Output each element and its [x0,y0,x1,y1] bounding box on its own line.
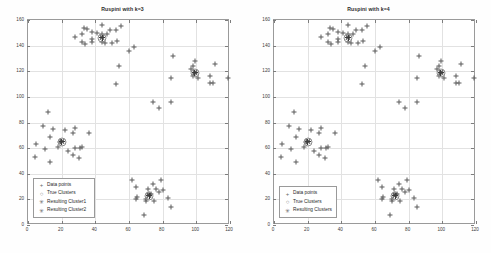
data-point-marker [458,61,463,66]
data-point-marker [211,80,216,85]
axis-tick-x [95,221,96,224]
data-point-marker [157,106,162,111]
axis-tick-x [28,221,29,224]
gridline-horizontal [274,123,474,124]
data-point-marker [47,134,52,139]
data-point-marker [135,194,140,199]
data-point-marker [346,23,351,28]
figure-window: Ruspini with k=3 +Data points○True Clust… [0,0,491,253]
axis-label-y: 140 [6,42,24,47]
axis-tick-y [27,148,30,149]
data-point-marker [79,32,84,37]
plot-legend[interactable]: +Data points○True Clusters✳Resulting Clu… [33,178,95,218]
data-point-marker [319,34,324,39]
data-point-marker [86,130,91,135]
data-point-marker [416,53,421,58]
circle-icon: ○ [36,190,47,198]
data-point-marker [288,147,293,152]
data-point-marker [32,155,37,160]
axis-label-y: 100 [252,93,270,98]
data-point-marker [152,198,157,203]
axis-label-x: 60 [371,227,376,232]
data-point-marker [280,142,285,147]
axis-label-x: 80 [405,227,410,232]
legend-item-3[interactable]: ✳Resulting Cluster2 [36,206,91,215]
axis-tick-x [308,221,309,224]
legend-item-2[interactable]: ✳Resulting Cluster1 [36,198,91,207]
data-point-marker [73,125,78,130]
axis-tick-x-top [230,20,231,23]
data-point-marker [115,38,120,43]
resulting-cluster-marker [438,70,444,76]
data-point-marker [287,124,292,129]
axis-label-y: 40 [252,170,270,175]
data-point-marker [169,100,174,105]
axis-label-x: 20 [58,227,63,232]
plot-axes-k4: +Data points○True Clusters✳Resulting Clu… [273,19,475,224]
data-point-marker [317,130,322,135]
data-point-marker [325,144,330,149]
axis-tick-y-right [471,46,474,47]
gridline-horizontal [274,174,474,175]
gridline-vertical [341,20,342,223]
axis-tick-y-right [225,123,228,124]
data-point-marker [192,59,197,64]
axis-tick-y [273,97,276,98]
data-point-marker [396,100,401,105]
axis-tick-x-top [95,20,96,23]
axis-tick-y-right [225,199,228,200]
axis-label-x: 80 [159,227,164,232]
gridline-horizontal [28,174,228,175]
legend-item-1[interactable]: ○True Clusters [282,198,333,207]
axis-label-x: 40 [338,227,343,232]
data-point-marker [226,75,231,80]
axis-tick-x [230,221,231,224]
axis-tick-x [476,221,477,224]
data-point-marker [165,196,170,201]
axis-tick-y-right [225,20,228,21]
circle-icon: ○ [282,198,293,206]
axis-label-y: 160 [252,17,270,22]
axis-tick-y [27,97,30,98]
axis-tick-y-right [225,148,228,149]
star-icon: ✳ [282,207,293,215]
axis-tick-y [27,123,30,124]
data-point-marker [319,125,324,130]
legend-marker-glyph: ✳ [39,208,44,214]
data-point-marker [132,44,137,49]
gridline-horizontal [274,46,474,47]
data-point-marker [472,75,477,80]
axis-label-x: 120 [225,227,233,232]
axis-tick-y-right [471,123,474,124]
axis-label-x: 60 [125,227,130,232]
resulting-cluster-marker [345,35,351,41]
data-point-marker [381,194,386,199]
axis-tick-y-right [471,225,474,226]
data-point-marker [329,42,334,47]
data-point-marker [388,212,393,217]
legend-item-label: Data points [293,191,317,196]
axis-tick-y [27,46,30,47]
data-point-marker [46,110,51,115]
axis-tick-x [409,221,410,224]
axis-tick-x [163,221,164,224]
data-point-marker [278,155,283,160]
axis-tick-x-top [442,20,443,23]
axis-tick-y [273,225,276,226]
legend-item-2[interactable]: ✳Resulting Clusters [282,206,333,215]
axis-tick-x [274,221,275,224]
plot-legend[interactable]: +Data points○True Clusters✳Resulting Clu… [279,186,337,218]
legend-item-1[interactable]: ○True Clusters [36,189,91,198]
figure-panel-k4: Ruspini with k=4 +Data points○True Clust… [246,0,491,253]
resulting-cluster-marker [392,193,398,199]
axis-tick-y [273,174,276,175]
axis-tick-y [273,71,276,72]
legend-item-0[interactable]: +Data points [36,181,91,190]
axis-tick-y-right [225,174,228,175]
data-point-marker [332,130,337,135]
data-point-marker [362,64,367,69]
axis-tick-x [341,221,342,224]
data-point-marker [457,80,462,85]
legend-item-0[interactable]: +Data points [282,189,333,198]
data-point-marker [150,100,155,105]
